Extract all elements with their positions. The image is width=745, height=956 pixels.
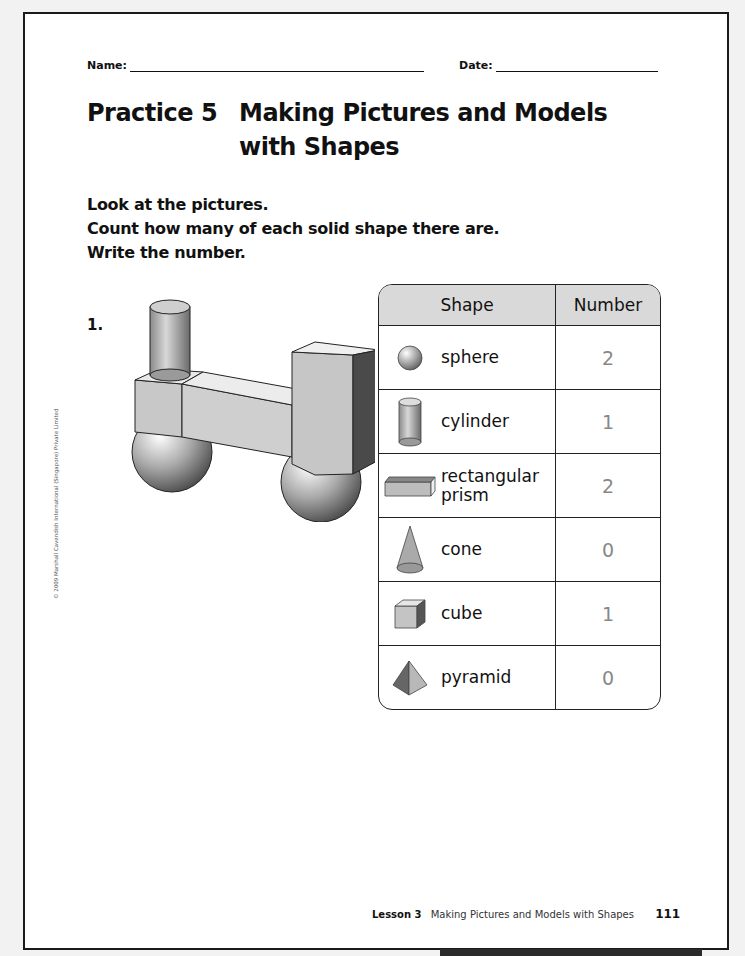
date-line[interactable]: [496, 61, 658, 72]
date-label: Date:: [459, 59, 493, 72]
cone-icon: [379, 524, 441, 576]
name-line[interactable]: [130, 61, 424, 72]
page-shadow: [440, 949, 702, 956]
question-number: 1.: [87, 316, 103, 334]
shape-label: cone: [441, 540, 482, 559]
shape-label: pyramid: [441, 668, 511, 687]
title-line-2: with Shapes: [239, 130, 399, 164]
table-header-row: Shape Number: [379, 285, 660, 326]
number-cell[interactable]: 1: [556, 582, 660, 646]
number-cell[interactable]: 2: [556, 454, 660, 518]
footer-lesson-title: Making Pictures and Models with Shapes: [431, 909, 634, 920]
page-title: Practice 5 Making Pictures and Models wi…: [87, 96, 239, 130]
name-label: Name:: [87, 59, 127, 72]
table-row: cube 1: [379, 582, 660, 646]
page-footer: Lesson 3 Making Pictures and Models with…: [372, 907, 680, 921]
cube-icon: [379, 597, 441, 631]
table-row: sphere 2: [379, 326, 660, 390]
practice-number: Practice 5: [87, 96, 239, 130]
number-cell[interactable]: 0: [556, 518, 660, 582]
number-cell[interactable]: 0: [556, 646, 660, 709]
date-field[interactable]: Date:: [459, 59, 658, 72]
title-line-1: Making Pictures and Models: [239, 96, 607, 130]
copyright-text: © 2009 Marshall Cavendish International …: [53, 409, 59, 599]
shape-count-table: Shape Number sphere 2 cylinde: [378, 284, 661, 710]
sphere-icon: [379, 345, 441, 371]
header-shape: Shape: [379, 285, 556, 326]
name-field[interactable]: Name:: [87, 59, 424, 72]
rectangular-prism-icon: [379, 474, 441, 498]
shape-label: cube: [441, 604, 482, 623]
table-row: cone 0: [379, 518, 660, 582]
instruction-line: Look at the pictures.: [87, 193, 499, 217]
number-cell[interactable]: 1: [556, 390, 660, 454]
instruction-line: Count how many of each solid shape there…: [87, 217, 499, 241]
instruction-line: Write the number.: [87, 241, 499, 265]
shape-label: rectangular prism: [441, 467, 541, 505]
instructions: Look at the pictures. Count how many of …: [87, 193, 499, 265]
footer-lesson: Lesson 3: [372, 909, 422, 920]
number-cell[interactable]: 2: [556, 326, 660, 390]
table-row: pyramid 0: [379, 646, 660, 709]
copyright-notice: © 2009 Marshall Cavendish International …: [53, 599, 243, 605]
cylinder-icon: [379, 397, 441, 447]
shape-label: sphere: [441, 348, 499, 367]
page-number: 111: [655, 907, 680, 921]
pyramid-icon: [379, 659, 441, 697]
worksheet-page: Name: Date: Practice 5 Making Pictures a…: [23, 12, 729, 950]
shape-model-picture: [125, 292, 375, 522]
table-row: cylinder 1: [379, 390, 660, 454]
table-row: rectangular prism 2: [379, 454, 660, 518]
header-number: Number: [556, 285, 660, 326]
shape-label: cylinder: [441, 412, 509, 431]
